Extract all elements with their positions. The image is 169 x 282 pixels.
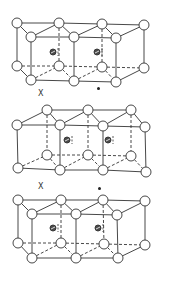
lattice-atom-icon (71, 253, 81, 263)
lattice-diagram (0, 0, 169, 282)
hidden-bond-line (103, 200, 104, 244)
lattice-atom-icon (140, 196, 150, 206)
lattice-atom-icon (27, 253, 37, 263)
lattice-atom-icon (69, 76, 79, 86)
lattice-atom-icon (97, 19, 107, 29)
lattice-atom-icon (141, 167, 151, 177)
x-marker-1: X (38, 90, 43, 98)
lattice-atom-icon (13, 195, 23, 205)
lattice-atom-icon (12, 61, 22, 71)
lattice-atom-icon (69, 32, 79, 42)
lattice-atom-icon (112, 210, 122, 220)
lattice-atom-icon (26, 32, 36, 42)
lattice-atom-icon (139, 20, 149, 30)
bond-line (60, 125, 103, 126)
lattice-atom-icon (98, 165, 108, 175)
hidden-bond-line (104, 244, 145, 245)
unit-cell-bottom (13, 195, 150, 263)
lattice-atom-icon (83, 150, 93, 160)
lattice-atom-icon (56, 238, 66, 248)
lattice-atom-icon (26, 75, 36, 85)
lattice-atom-icon (54, 61, 64, 71)
bond-line (103, 126, 145, 127)
lattice-atom-icon (27, 209, 37, 219)
lattice-atom-icon (140, 122, 150, 132)
bond-line (102, 24, 144, 25)
unit-cell-middle (12, 105, 151, 177)
lattice-atom-icon (126, 151, 136, 161)
lattice-atom-icon (98, 121, 108, 131)
lattice-atom-icon (55, 165, 65, 175)
lattice-atom-icon (139, 63, 149, 73)
hidden-bond-line (102, 67, 144, 68)
bond-line (145, 127, 146, 172)
lattice-atom-icon (71, 209, 81, 219)
lattice-atom-icon (99, 239, 109, 249)
lattice-atom-icon (42, 105, 52, 115)
lattice-atom-icon (126, 105, 136, 115)
crystal-structure-figure: X X (0, 0, 169, 282)
lattice-atom-icon (55, 120, 65, 130)
lattice-atom-icon (140, 240, 150, 250)
dot-marker-1 (97, 87, 100, 90)
lattice-atom-icon (56, 195, 66, 205)
hidden-bond-line (59, 66, 102, 67)
bond-line (59, 23, 102, 24)
bond-line (17, 125, 18, 168)
unit-cell-top (12, 18, 149, 87)
bond-line (74, 37, 116, 38)
lattice-atom-icon (12, 120, 22, 130)
bond-line (117, 215, 118, 258)
bond-line (31, 80, 74, 81)
lattice-atom-icon (111, 77, 121, 87)
hidden-bond-line (88, 155, 131, 156)
hidden-bond-line (61, 243, 104, 244)
lattice-atom-icon (54, 18, 64, 28)
lattice-atom-icon (97, 62, 107, 72)
lattice-atom-icon (13, 163, 23, 173)
lattice-atom-icon (83, 105, 93, 115)
x-marker-2: X (38, 183, 43, 191)
lattice-atom-icon (113, 253, 123, 263)
lattice-atom-icon (12, 18, 22, 28)
bond-line (18, 168, 60, 170)
bond-line (103, 170, 146, 172)
lattice-atom-icon (111, 33, 121, 43)
lattice-atom-icon (13, 238, 23, 248)
bond-line (76, 214, 117, 215)
bond-line (74, 81, 116, 82)
lattice-atom-icon (42, 150, 52, 160)
lattice-atom-icon (98, 195, 108, 205)
bond-line (103, 200, 145, 201)
dot-marker-2 (98, 187, 101, 190)
